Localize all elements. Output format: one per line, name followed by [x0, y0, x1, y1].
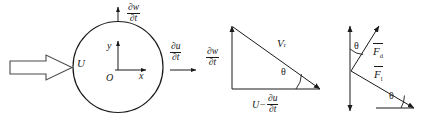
force-lift-label: Fl: [374, 66, 383, 82]
triangle-base-numerator: ∂u: [267, 94, 278, 104]
cylinder-right-label-denominator: ∂t: [170, 52, 181, 63]
relative-velocity-subscript: r: [284, 41, 286, 48]
force-lift-symbol: F: [374, 68, 381, 80]
triangle-vertical-denominator: ∂t: [206, 57, 219, 68]
force-lift-overbar: [374, 66, 383, 67]
force-drag-body: Fd: [373, 45, 383, 59]
relative-velocity-symbol: V: [277, 37, 284, 49]
triangle-base-denominator: ∂t: [267, 104, 278, 115]
force-lift-subscript: l: [381, 75, 383, 82]
inflow-block-arrow: [10, 55, 72, 80]
cylinder-right-label-numerator: ∂u: [170, 42, 181, 52]
force-drag-symbol: F: [373, 45, 380, 57]
cylinder-top-label-denominator: ∂t: [127, 13, 140, 24]
force-drag-label: Fd: [373, 43, 383, 59]
force-drag-overbar: [373, 43, 383, 44]
cylinder-right-acceleration-label: ∂u ∂t: [170, 42, 181, 63]
cylinder-top-acceleration-label: ∂w ∂t: [127, 3, 140, 24]
triangle-base-label: U− ∂u ∂t: [252, 94, 278, 115]
cylinder-top-label-numerator: ∂w: [127, 3, 140, 13]
axis-y-label: y: [107, 41, 111, 51]
force-drag-subscript: d: [380, 52, 383, 59]
triangle-vertical-numerator: ∂w: [206, 47, 219, 57]
figure-canvas: U ∂w ∂t ∂u ∂t y x O ∂w ∂t Vr θ U− ∂u ∂t …: [0, 0, 422, 120]
inflow-velocity-label: U: [77, 58, 85, 69]
triangle-base-fraction: ∂u ∂t: [267, 94, 278, 115]
triangle-vertical-label: ∂w ∂t: [206, 47, 219, 68]
relative-velocity-label: Vr: [277, 38, 286, 49]
axis-x-label: x: [139, 71, 143, 81]
cylinder-local-axes: [115, 41, 146, 70]
triangle-angle-label: θ: [281, 67, 286, 77]
force-angle-upper-label: θ: [354, 41, 359, 51]
velocity-triangle-shape: [232, 26, 320, 89]
force-lift-body: Fl: [374, 68, 383, 82]
origin-label: O: [106, 73, 113, 83]
force-angle-lower-label: θ: [389, 91, 394, 101]
triangle-base-lead: U−: [252, 99, 266, 110]
